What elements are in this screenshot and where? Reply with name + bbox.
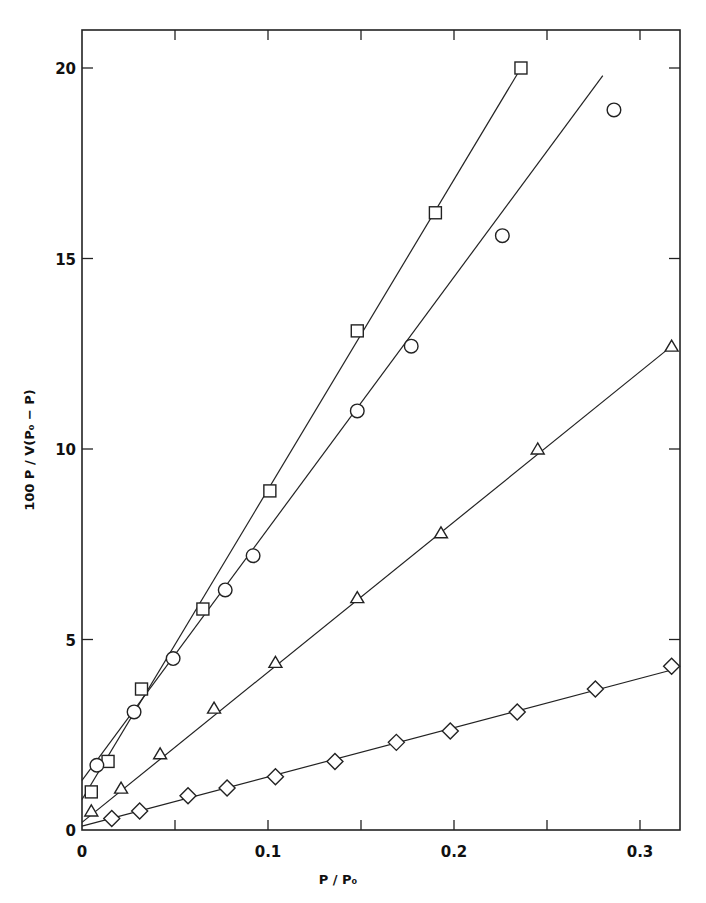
circle-marker bbox=[246, 549, 260, 563]
x-axis-title: P / P₀ bbox=[319, 872, 358, 887]
x-axis-tick-labels: 00.10.20.3 bbox=[77, 843, 654, 861]
square-marker bbox=[515, 62, 527, 74]
circles-fit-line bbox=[82, 76, 603, 781]
circle-marker bbox=[90, 758, 104, 772]
x-tick-label: 0 bbox=[77, 843, 87, 861]
data-markers bbox=[85, 62, 680, 827]
y-axis-tick-labels: 05101520 bbox=[55, 60, 76, 840]
circle-marker bbox=[166, 652, 180, 666]
x-tick-label: 0.2 bbox=[441, 843, 468, 861]
y-axis-title: 100 P / V(P₀ − P) bbox=[22, 389, 37, 511]
y-tick-label: 0 bbox=[66, 822, 76, 840]
circle-marker bbox=[350, 404, 364, 418]
diamond-marker bbox=[132, 803, 148, 819]
diamonds-fit-line bbox=[82, 670, 672, 826]
diamond-marker bbox=[509, 704, 525, 720]
triangles-fit-line bbox=[82, 346, 672, 822]
x-axis-ticks bbox=[175, 30, 640, 830]
circle-marker bbox=[404, 339, 418, 353]
square-marker bbox=[351, 325, 363, 337]
triangle-marker bbox=[208, 702, 221, 713]
circle-marker bbox=[127, 705, 141, 719]
circle-marker bbox=[496, 229, 510, 243]
diamond-marker bbox=[267, 769, 283, 785]
diamond-marker bbox=[219, 780, 235, 796]
square-marker bbox=[264, 485, 276, 497]
x-tick-label: 0.1 bbox=[255, 843, 282, 861]
circle-marker bbox=[607, 103, 621, 117]
diamond-marker bbox=[327, 753, 343, 769]
y-tick-label: 5 bbox=[66, 632, 76, 650]
diamond-marker bbox=[442, 723, 458, 739]
triangle-marker bbox=[154, 748, 167, 759]
diamond-marker bbox=[180, 788, 196, 804]
circle-marker bbox=[218, 583, 232, 597]
triangle-marker bbox=[531, 443, 544, 454]
y-axis-ticks bbox=[82, 68, 680, 640]
y-tick-label: 20 bbox=[55, 60, 76, 78]
diamond-marker bbox=[104, 811, 120, 827]
plot-frame bbox=[82, 30, 680, 830]
triangle-marker bbox=[665, 340, 678, 351]
fit-lines bbox=[82, 68, 672, 826]
diamond-marker bbox=[587, 681, 603, 697]
x-tick-label: 0.3 bbox=[627, 843, 654, 861]
y-tick-label: 15 bbox=[55, 251, 76, 269]
square-marker bbox=[136, 683, 148, 695]
square-marker bbox=[197, 603, 209, 615]
isotherm-chart: 00.10.20.3 05101520 P / P₀ 100 P / V(P₀ … bbox=[0, 0, 706, 903]
y-tick-label: 10 bbox=[55, 441, 76, 459]
diamond-marker bbox=[388, 734, 404, 750]
square-marker bbox=[429, 207, 441, 219]
square-marker bbox=[85, 786, 97, 798]
